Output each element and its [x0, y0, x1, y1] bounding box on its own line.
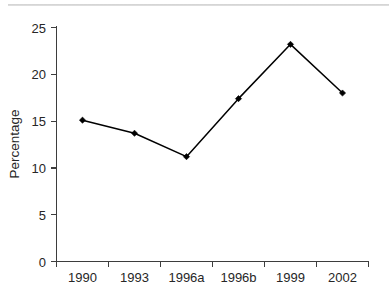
x-tick-label-2002: 2002 [328, 270, 357, 285]
y-tick-label-10: 10 [32, 161, 46, 176]
x-tick-label-1996b: 1996b [220, 270, 256, 285]
y-tick-label-15: 15 [32, 114, 46, 129]
y-tick-label-20: 20 [32, 67, 46, 82]
y-tick-label-25: 25 [32, 21, 46, 36]
data-point-1990 [79, 117, 85, 123]
line-chart: 25 20 15 10 5 0 1990 1993 1996a 1996b 19… [0, 0, 391, 303]
y-axis-ticks [51, 28, 57, 262]
x-tick-label-1999: 1999 [276, 270, 305, 285]
data-point-1993 [131, 130, 137, 136]
x-axis-ticks [57, 262, 369, 268]
series-line-percentage [83, 44, 343, 156]
x-tick-label-1993: 1993 [120, 270, 149, 285]
y-tick-label-0: 0 [39, 255, 46, 270]
x-tick-label-1990: 1990 [68, 270, 97, 285]
y-axis-title: Percentage [7, 109, 22, 178]
chart-figure: 25 20 15 10 5 0 1990 1993 1996a 1996b 19… [0, 0, 391, 303]
x-tick-label-1996a: 1996a [168, 270, 205, 285]
y-tick-label-5: 5 [39, 208, 46, 223]
